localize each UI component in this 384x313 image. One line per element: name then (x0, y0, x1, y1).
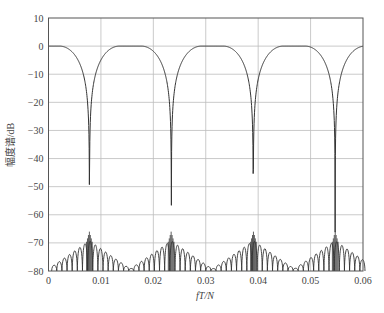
x-tick-label: 0.04 (249, 275, 267, 286)
x-axis-ticks: 00.010.020.030.040.050.06 (46, 275, 372, 286)
sidelobe-ripple (52, 241, 365, 271)
y-tick-label: −60 (28, 209, 44, 220)
y-tick-label: 0 (39, 41, 44, 52)
y-tick-label: −80 (28, 266, 44, 277)
y-tick-label: −50 (28, 181, 44, 192)
y-tick-label: −70 (28, 237, 44, 248)
x-tick-label: 0.06 (354, 275, 372, 286)
y-tick-label: 10 (34, 13, 44, 24)
y-tick-label: −10 (28, 69, 44, 80)
magnitude-spectrum-chart: 100−10−20−30−40−50−60−70−80 00.010.020.0… (0, 0, 384, 313)
x-axis-label: fT/N (196, 290, 215, 301)
y-tick-label: −40 (28, 153, 44, 164)
x-tick-label: 0.05 (302, 275, 320, 286)
grid-lines (49, 18, 364, 271)
x-tick-label: 0.02 (145, 275, 163, 286)
x-tick-label: 0.01 (92, 275, 110, 286)
y-axis-label: 幅度谱/dB (4, 122, 16, 167)
x-tick-label: 0.03 (197, 275, 215, 286)
y-tick-label: −30 (28, 125, 44, 136)
y-tick-label: −20 (28, 97, 44, 108)
y-axis-ticks: 100−10−20−30−40−50−60−70−80 (28, 13, 44, 277)
x-tick-label: 0 (46, 275, 51, 286)
